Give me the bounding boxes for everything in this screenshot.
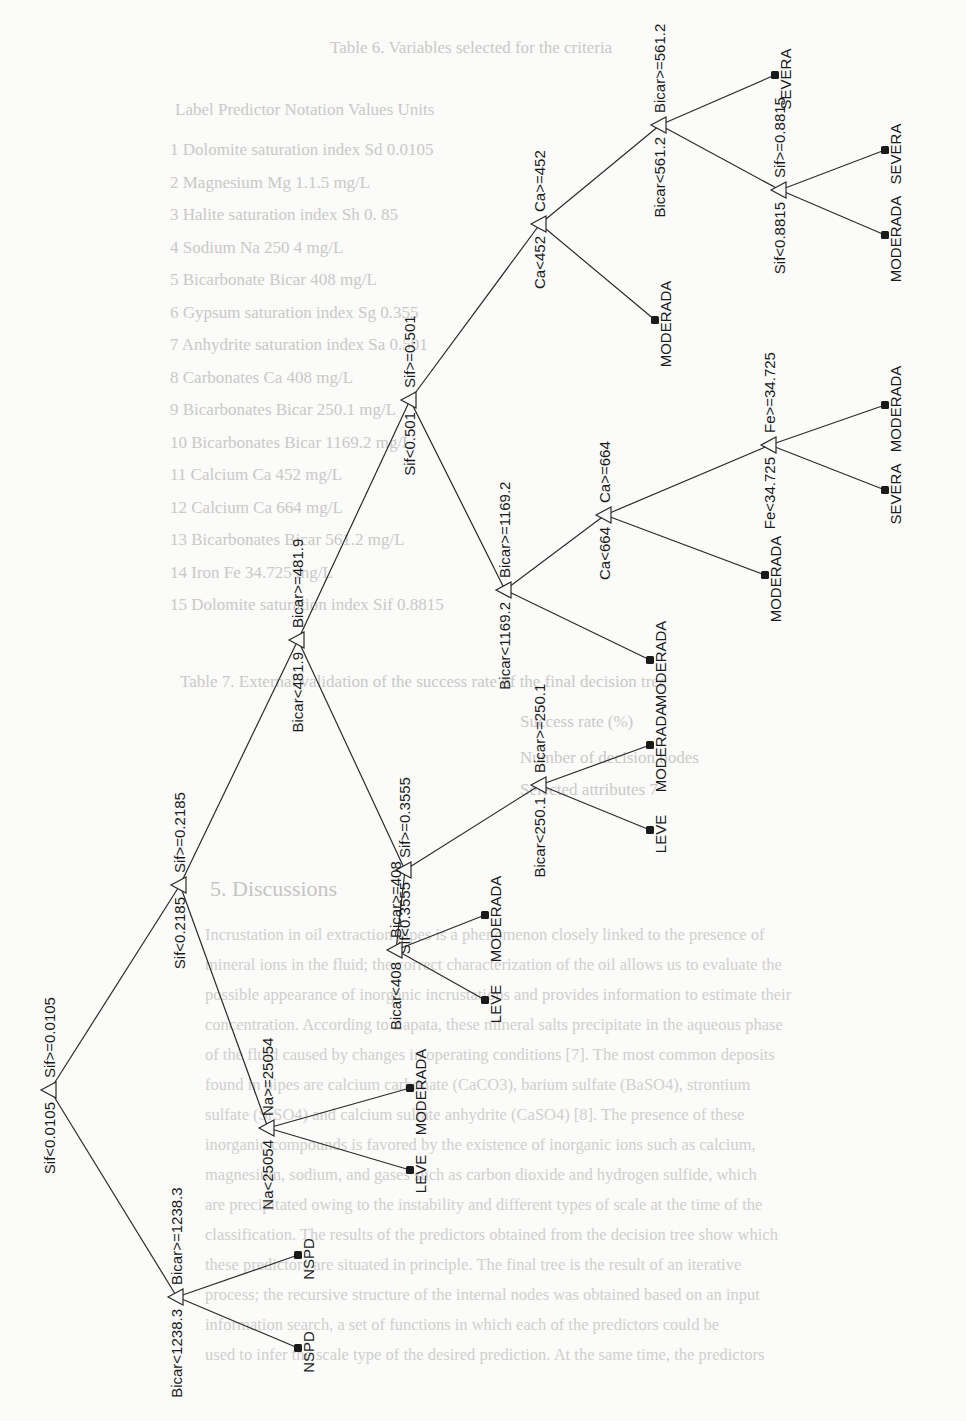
tree-edge xyxy=(540,125,660,224)
tree-edge xyxy=(180,885,268,1128)
leaf-label: MODERADA xyxy=(767,536,784,623)
leaf-label: MODERADA xyxy=(652,706,669,793)
split-node-triangle-icon xyxy=(531,777,546,793)
tree-edge xyxy=(50,1090,177,1297)
tree-edge xyxy=(298,400,410,640)
split-label-left: Sif<0.501 xyxy=(401,412,418,476)
split-node-triangle-icon xyxy=(41,1082,56,1098)
split-label-left: Bicar<408 xyxy=(387,962,404,1030)
split-node-triangle-icon xyxy=(168,1289,183,1305)
split-label-left: Sif<0.0105 xyxy=(41,1102,58,1174)
split-label-right: Sif>=0.3555 xyxy=(396,777,413,858)
tree-edge xyxy=(660,125,780,190)
split-label-left: Bicar<561.2 xyxy=(651,137,668,217)
decision-tree-diagram: Sif<0.0105Sif>=0.0105Bicar<1238.3Bicar>=… xyxy=(0,0,966,1421)
split-node-triangle-icon xyxy=(496,582,511,598)
leaf-label: MODERADA xyxy=(487,876,504,963)
split-label-right: Bicar>=408 xyxy=(387,861,404,938)
tree-edge xyxy=(298,640,405,870)
leaf-label: NSPD xyxy=(300,1238,317,1280)
tree-edge xyxy=(540,785,650,830)
leaf-label: LEVE xyxy=(652,815,669,853)
split-label-left: Fe<34.725 xyxy=(761,457,778,529)
tree-edge xyxy=(268,1088,410,1128)
split-label-right: Sif>=0.501 xyxy=(401,315,418,388)
tree-edge xyxy=(605,445,770,515)
tree-edge xyxy=(396,950,485,1000)
leaf-label: LEVE xyxy=(487,985,504,1023)
leaf-label: SEVERA xyxy=(777,49,794,110)
tree-edge xyxy=(410,224,540,400)
split-label-left: Sif<0.2185 xyxy=(171,897,188,969)
split-label-right: Sif>=0.2185 xyxy=(171,792,188,873)
split-label-right: Ca>=452 xyxy=(531,150,548,212)
tree-edge xyxy=(780,150,885,190)
split-node-triangle-icon xyxy=(761,437,776,453)
leaf-label: MODERADA xyxy=(652,621,669,708)
tree-edge xyxy=(605,515,765,575)
leaf-label: MODERADA xyxy=(887,196,904,283)
split-label-right: Bicar>=1238.3 xyxy=(168,1187,185,1285)
leaf-label: SEVERA xyxy=(887,124,904,185)
leaf-label: NSPD xyxy=(300,1331,317,1373)
tree-edge xyxy=(177,1255,298,1297)
split-label-right: Fe>=34.725 xyxy=(761,352,778,433)
split-label-left: Ca<664 xyxy=(596,527,613,580)
tree-edge xyxy=(660,75,775,125)
leaf-label: LEVE xyxy=(412,1155,429,1193)
leaf-label: SEVERA xyxy=(887,464,904,525)
tree-edge xyxy=(780,190,885,235)
tree-edge xyxy=(177,1297,298,1348)
split-label-left: Bicar<1238.3 xyxy=(168,1309,185,1398)
split-node-triangle-icon xyxy=(387,942,402,958)
tree-edge xyxy=(410,400,505,590)
split-label-left: Bicar<481.9 xyxy=(289,652,306,732)
split-label-left: Bicar<1169.2 xyxy=(496,602,513,690)
leaf-label: MODERADA xyxy=(412,1049,429,1136)
leaf-label: MODERADA xyxy=(657,281,674,368)
tree-edge xyxy=(505,590,650,660)
split-label-right: Na>=25054 xyxy=(259,1038,276,1116)
tree-edge xyxy=(505,515,605,590)
split-label-right: Ca>=664 xyxy=(596,441,613,503)
split-node-triangle-icon xyxy=(771,182,786,198)
split-label-right: Sif>=0.0105 xyxy=(41,997,58,1078)
split-node-triangle-icon xyxy=(171,877,186,893)
leaf-label: MODERADA xyxy=(887,366,904,453)
tree-edge xyxy=(268,1128,410,1170)
split-node-triangle-icon xyxy=(531,216,546,232)
tree-edge xyxy=(540,745,650,785)
split-label-left: Sif<0.8815 xyxy=(771,202,788,274)
split-node-triangle-icon xyxy=(401,392,416,408)
split-label-right: Bicar>=561.2 xyxy=(651,24,668,113)
tree-edge xyxy=(180,640,298,885)
scanned-page: Table 6. Variables selected for the crit… xyxy=(0,0,966,1421)
tree-edge xyxy=(50,885,180,1090)
split-label-right: Bicar>=481.9 xyxy=(289,539,306,628)
tree-edge xyxy=(405,785,540,870)
split-label-left: Ca<452 xyxy=(531,236,548,289)
split-label-left: Na<25054 xyxy=(259,1140,276,1210)
split-node-triangle-icon xyxy=(289,632,304,648)
tree-edge xyxy=(770,405,885,445)
split-label-right: Bicar>=250.1 xyxy=(531,684,548,773)
tree-edge xyxy=(540,224,655,320)
split-label-right: Bicar>=1169.2 xyxy=(496,482,513,578)
tree-edge xyxy=(770,445,885,490)
split-label-left: Bicar<250.1 xyxy=(531,797,548,877)
